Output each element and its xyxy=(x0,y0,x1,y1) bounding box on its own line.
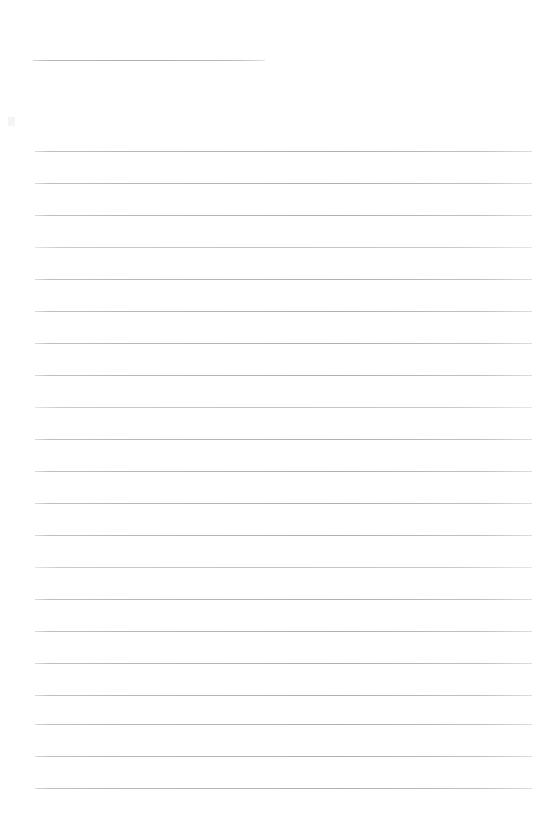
writing-row-8[interactable] xyxy=(35,345,532,375)
ruled-line-9 xyxy=(35,407,532,408)
ruled-line-6 xyxy=(35,311,532,312)
ruled-line-2 xyxy=(35,183,532,184)
ruled-line-5 xyxy=(35,279,532,280)
writing-row-5[interactable] xyxy=(35,249,532,279)
writing-row-18[interactable] xyxy=(35,665,532,695)
scan-speck-artifact xyxy=(8,117,15,126)
writing-row-14[interactable] xyxy=(35,537,532,567)
ruled-line-10 xyxy=(35,439,532,440)
ruled-line-19 xyxy=(35,724,532,725)
ruled-line-12 xyxy=(35,503,532,504)
ruled-line-11 xyxy=(35,471,532,472)
writing-row-17[interactable] xyxy=(35,633,532,663)
writing-row-10[interactable] xyxy=(35,409,532,439)
ruled-line-3 xyxy=(35,215,532,216)
ruled-line-1 xyxy=(35,151,532,152)
ruled-line-21 xyxy=(35,788,532,789)
header-blank-rule[interactable] xyxy=(33,60,265,61)
writing-row-4[interactable] xyxy=(35,217,532,247)
ruled-line-16 xyxy=(35,631,532,632)
ruled-line-4 xyxy=(35,247,532,248)
writing-row-16[interactable] xyxy=(35,601,532,631)
writing-row-6[interactable] xyxy=(35,281,532,311)
writing-row-21[interactable] xyxy=(35,758,532,788)
writing-row-9[interactable] xyxy=(35,377,532,407)
writing-row-2[interactable] xyxy=(35,153,532,183)
writing-row-20[interactable] xyxy=(35,726,532,756)
writing-row-11[interactable] xyxy=(35,441,532,471)
ruled-line-14 xyxy=(35,567,532,568)
writing-row-19[interactable] xyxy=(35,694,532,724)
worksheet-page xyxy=(0,0,538,815)
writing-row-15[interactable] xyxy=(35,569,532,599)
writing-row-12[interactable] xyxy=(35,473,532,503)
writing-row-3[interactable] xyxy=(35,185,532,215)
ruled-line-8 xyxy=(35,375,532,376)
ruled-line-7 xyxy=(35,343,532,344)
ruled-line-15 xyxy=(35,599,532,600)
ruled-line-17 xyxy=(35,663,532,664)
ruled-line-20 xyxy=(35,756,532,757)
ruled-line-13 xyxy=(35,535,532,536)
writing-row-13[interactable] xyxy=(35,505,532,535)
writing-row-7[interactable] xyxy=(35,313,532,343)
writing-row-1[interactable] xyxy=(35,121,532,151)
